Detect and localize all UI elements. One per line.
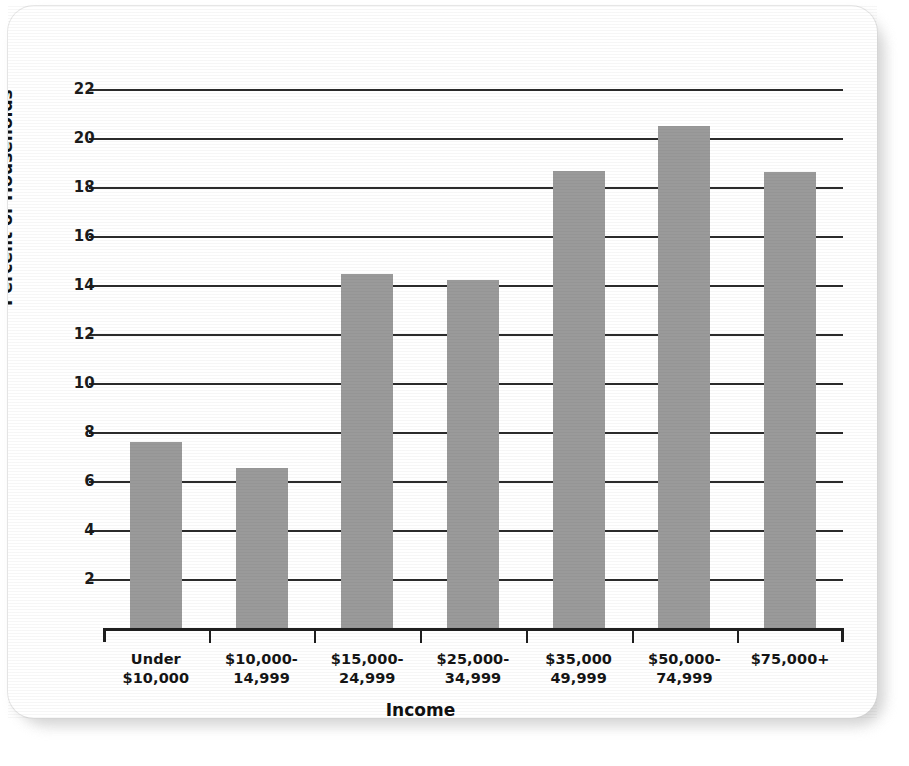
chart-page: Percent of Households 246810121416182022… [0,0,909,766]
x-axis-tick-label: $35,000 49,999 [526,650,632,688]
y-axis-tick-label: 20 [35,129,95,147]
gridline [103,187,843,189]
x-axis-left-cap [103,628,106,642]
x-axis-right-cap [841,628,844,642]
x-axis-tick-label: Under $10,000 [103,650,209,688]
x-axis-tick-mark [526,630,528,643]
bar [130,442,182,628]
plot-area: 246810121416182022 [103,6,843,628]
y-axis-tick-label: 4 [35,521,95,539]
bar [447,280,499,628]
y-axis-title: Percent of Households [8,89,16,306]
x-axis-line [103,628,844,631]
y-axis-tick-label: 18 [35,178,95,196]
x-axis-tick-label: $25,000- 34,999 [420,650,526,688]
y-axis-tick-label: 14 [35,276,95,294]
y-axis-tick-label: 12 [35,325,95,343]
gridline [103,89,843,91]
bar [658,126,710,628]
x-axis-tick-label: $15,000- 24,999 [314,650,420,688]
x-axis-tick-mark [314,630,316,643]
x-axis-tick-label: $50,000- 74,999 [632,650,738,688]
x-axis-tick-label: $10,000- 14,999 [209,650,315,688]
x-axis-tick-label: $75,000+ [737,650,843,669]
gridline [103,138,843,140]
bar [764,172,816,628]
y-axis-tick-label: 8 [35,423,95,441]
y-axis-tick-label: 2 [35,570,95,588]
x-axis-tick-mark [737,630,739,643]
y-axis-tick-label: 22 [35,80,95,98]
bar-chart: Percent of Households 246810121416182022… [8,6,877,718]
bar [341,274,393,628]
bar [236,468,288,628]
x-axis-tick-mark [632,630,634,643]
chart-card: Percent of Households 246810121416182022… [8,6,877,718]
x-axis-title-text: Income [386,700,455,718]
bar [553,171,605,628]
x-axis-tick-mark [209,630,211,643]
x-axis-title: Income [8,700,877,718]
y-axis-tick-label: 10 [35,374,95,392]
y-axis-tick-label: 16 [35,227,95,245]
gridline [103,236,843,238]
y-axis-tick-label: 6 [35,472,95,490]
x-axis-tick-mark [420,630,422,643]
